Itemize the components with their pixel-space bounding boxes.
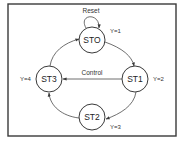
state-st3-label: ST3 [41,74,57,84]
label-reset: Reset [83,7,100,14]
state-st3: ST3 [36,66,62,92]
state-st2-output: Y=3 [110,124,122,130]
state-st2-label: ST2 [84,112,100,122]
state-sto-output: Y=1 [110,28,122,34]
state-st2: ST2 [79,104,105,130]
state-sto-label: STO [83,35,101,45]
state-st1-output: Y=2 [153,76,165,82]
state-diagram: Reset Control STO Y=1 ST1 Y=2 ST2 Y=3 ST… [0,0,181,142]
label-control: Control [82,69,104,76]
state-st3-output: Y=4 [20,76,32,82]
state-sto: STO [79,27,105,53]
state-st1: ST1 [122,66,148,92]
state-st1-label: ST1 [127,74,143,84]
